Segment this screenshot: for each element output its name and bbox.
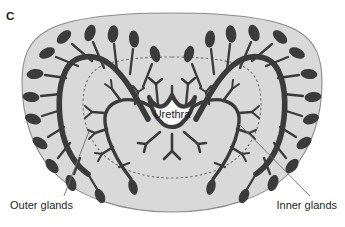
urethra-label: Urethra	[154, 108, 192, 120]
outer-glands-label: Outer glands	[10, 199, 73, 211]
panel-letter: C	[6, 10, 14, 22]
figure-container: C	[0, 0, 345, 227]
inner-glands-label: Inner glands	[276, 199, 337, 211]
prostate-cross-section-diagram: C	[0, 0, 345, 227]
